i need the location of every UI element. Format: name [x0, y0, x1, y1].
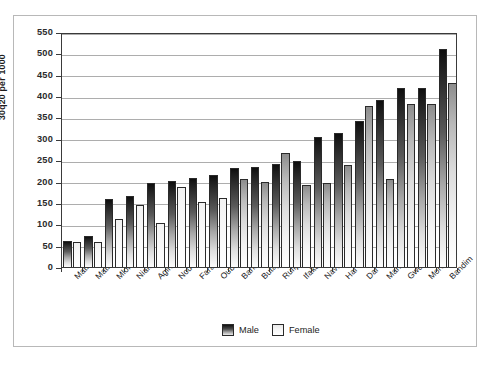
legend-swatch-female	[272, 324, 284, 336]
x-tick-mark	[332, 268, 333, 272]
bar-male	[147, 183, 155, 267]
bar-male	[397, 88, 405, 267]
plot-area	[61, 33, 457, 268]
x-tick-mark	[165, 268, 166, 272]
gridline	[62, 34, 456, 35]
x-tick-mark	[415, 268, 416, 272]
y-tick-label: 300	[37, 134, 53, 144]
y-tick-label: 0	[48, 262, 53, 272]
bar-female	[198, 202, 206, 267]
bar-male	[251, 167, 259, 267]
gridline	[62, 76, 456, 77]
bar-male	[105, 199, 113, 267]
bar-female	[94, 242, 102, 267]
bar-female	[136, 205, 144, 267]
x-tick-mark	[457, 268, 458, 272]
y-axis-title: 30q20 per 1000	[0, 54, 7, 120]
bar-male	[126, 196, 134, 267]
x-tick-mark	[290, 268, 291, 272]
x-tick-mark	[249, 268, 250, 272]
x-tick-mark	[311, 268, 312, 272]
bar-female	[427, 104, 435, 267]
bar-female	[240, 179, 248, 267]
bar-male	[314, 137, 322, 267]
legend-label: Male	[239, 325, 259, 335]
legend-item-male: Male	[222, 324, 259, 336]
y-tick-label: 100	[37, 219, 53, 229]
y-tick-label: 350	[37, 112, 53, 122]
x-tick-mark	[82, 268, 83, 272]
bar-male	[334, 133, 342, 267]
y-tick-label: 50	[42, 241, 53, 251]
x-tick-mark	[186, 268, 187, 272]
y-tick-label: 400	[37, 91, 53, 101]
bar-female	[177, 187, 185, 267]
bar-male	[189, 178, 197, 267]
bar-female	[365, 106, 373, 268]
bar-male	[63, 241, 71, 267]
x-tick-mark	[124, 268, 125, 272]
chart-figure: 050100150200250300350400450500550Matlab …	[0, 0, 495, 369]
y-tick-label: 200	[37, 177, 53, 187]
bar-female	[448, 83, 456, 267]
gridline	[62, 55, 456, 56]
bar-male	[355, 121, 363, 267]
bar-male	[168, 181, 176, 267]
legend-item-female: Female	[272, 324, 320, 336]
x-tick-mark	[207, 268, 208, 272]
x-tick-mark	[103, 268, 104, 272]
bar-male	[293, 161, 301, 267]
y-tick-label: 550	[37, 27, 53, 37]
y-tick-label: 250	[37, 155, 53, 165]
bar-female	[302, 185, 310, 267]
legend-swatch-male	[222, 324, 234, 336]
bar-female	[407, 104, 415, 267]
y-tick-label: 150	[37, 198, 53, 208]
bar-male	[272, 164, 280, 267]
bar-female	[219, 198, 227, 267]
bar-female	[323, 183, 331, 267]
y-tick-label: 500	[37, 48, 53, 58]
x-tick-mark	[394, 268, 395, 272]
chart-legend: MaleFemale	[222, 324, 320, 336]
bar-male	[376, 100, 384, 267]
bar-female	[115, 219, 123, 267]
bar-female	[156, 223, 164, 267]
bar-male	[84, 236, 92, 267]
bar-male	[230, 168, 238, 267]
bar-female	[261, 182, 269, 267]
bar-female	[281, 153, 289, 267]
bar-male	[439, 49, 447, 267]
bar-male	[418, 88, 426, 267]
bar-female	[386, 179, 394, 267]
bar-female	[344, 165, 352, 267]
x-tick-mark	[269, 268, 270, 272]
x-tick-mark	[228, 268, 229, 272]
x-tick-mark	[353, 268, 354, 272]
bar-female	[73, 242, 81, 267]
y-tick-label: 450	[37, 70, 53, 80]
x-tick-mark	[144, 268, 145, 272]
x-tick-mark	[374, 268, 375, 272]
x-tick-mark	[61, 268, 62, 272]
bar-male	[209, 175, 217, 267]
legend-label: Female	[289, 325, 320, 335]
x-tick-mark	[436, 268, 437, 272]
